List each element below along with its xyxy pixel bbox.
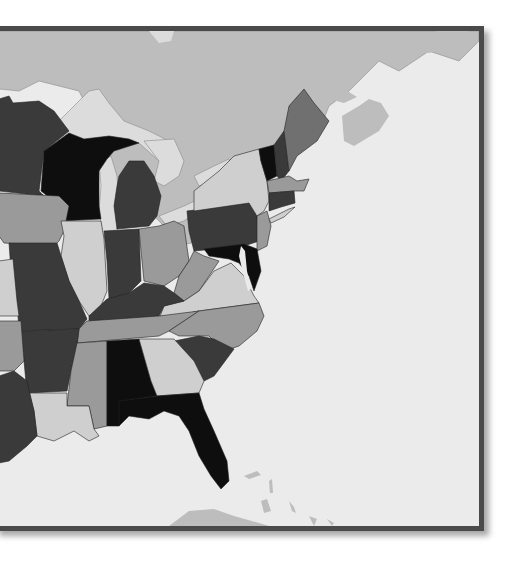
bahamas-7 [327,519,334,526]
state-florida [119,393,229,489]
bahamas-1 [244,471,261,479]
bahamas-3 [269,479,273,493]
map-frame [0,26,484,531]
state-iowa [0,193,69,246]
bahamas-4 [289,501,296,513]
bahamas-6 [309,516,317,526]
nova-scotia [342,99,389,146]
state-new-jersey [257,211,271,251]
state-oklahoma [0,321,24,371]
state-massachusetts [267,176,309,193]
eastern-us-map [0,31,479,526]
bahamas-2 [261,499,271,513]
cuba [169,509,269,526]
